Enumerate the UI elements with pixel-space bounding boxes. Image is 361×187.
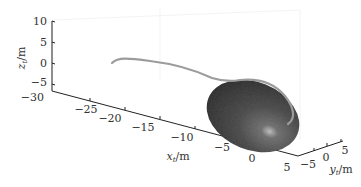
z-tick-10: 10 xyxy=(33,15,47,28)
3d-plot: 10 5 0 −5 zt/m −30 −25 −20 −15 −10 −5 0 … xyxy=(0,0,361,187)
y-tick-5: 5 xyxy=(342,144,349,157)
x-axis-label: xt/m xyxy=(166,150,190,164)
x-tick-minus30: −30 xyxy=(21,91,44,104)
y-tick-minus5: −5 xyxy=(300,158,316,171)
x-tick-5: 5 xyxy=(284,161,291,174)
y-axis-label: yt/m xyxy=(328,163,353,177)
z-tick-0: 0 xyxy=(40,57,47,70)
z-axis-label: zt/m xyxy=(15,46,29,70)
x-tick-minus15: −15 xyxy=(131,121,154,134)
x-tick-minus5: −5 xyxy=(214,141,230,154)
z-tick-minus5: −5 xyxy=(31,76,47,89)
x-tick-0: 0 xyxy=(249,152,256,165)
y-axis: −5 0 5 yt/m xyxy=(298,139,353,177)
x-tick-minus20: −20 xyxy=(98,112,121,125)
x-tick-minus25: −25 xyxy=(74,103,97,116)
z-axis: 10 5 0 −5 zt/m xyxy=(15,15,55,91)
z-tick-5: 5 xyxy=(40,36,47,49)
x-tick-minus10: −10 xyxy=(170,131,193,144)
